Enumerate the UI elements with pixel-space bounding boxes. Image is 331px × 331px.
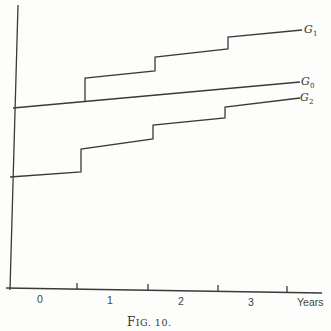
svg-text:G: G	[304, 23, 313, 36]
curve-g0	[13, 82, 300, 108]
svg-text:G: G	[301, 75, 310, 88]
svg-text:G: G	[300, 91, 309, 104]
svg-text:FIG. 10.: FIG. 10.	[127, 315, 171, 329]
x-tick-label-3: 3	[248, 296, 254, 308]
label-g2: G 2	[300, 91, 313, 106]
svg-text:2: 2	[309, 98, 313, 106]
x-axis	[6, 288, 322, 293]
x-axis-unit-label: Years	[297, 296, 323, 308]
svg-text:0: 0	[310, 82, 314, 90]
curve-g1	[85, 30, 302, 101]
label-g1: G 1	[304, 23, 317, 38]
figure-caption: FIG. 10.	[127, 315, 171, 329]
figure-canvas: 0 1 2 3 Years G 1 G 0 G 2 FIG. 10.	[0, 0, 331, 331]
y-axis	[10, 5, 18, 290]
x-tick-label-1: 1	[107, 294, 113, 306]
x-tick-label-0: 0	[37, 293, 43, 305]
curve-g2	[10, 98, 300, 177]
label-g0: G 0	[301, 75, 314, 90]
svg-text:1: 1	[313, 30, 317, 38]
x-tick-label-2: 2	[178, 295, 184, 307]
